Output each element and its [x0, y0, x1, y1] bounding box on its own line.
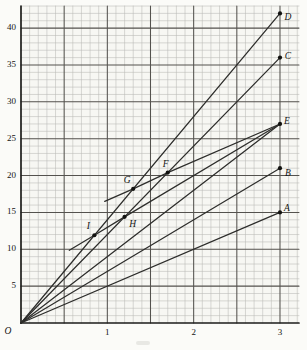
- y-tick-label-20: 20: [7, 170, 17, 180]
- y-tick-label-30: 30: [7, 96, 17, 106]
- y-tick-label-40: 40: [7, 22, 17, 32]
- point-label-C: C: [285, 51, 292, 61]
- y-tick-label-5: 5: [12, 280, 17, 290]
- point-dot-A: [278, 210, 282, 214]
- point-dot-H: [122, 215, 126, 219]
- point-label-G: G: [124, 175, 131, 185]
- y-tick-label-35: 35: [7, 59, 17, 69]
- graph-canvas: ABCDEFGHI510152025303540123O: [0, 0, 307, 350]
- point-label-A: A: [283, 203, 290, 213]
- caption-smudge-artifact: [136, 341, 150, 345]
- point-label-B: B: [285, 168, 291, 178]
- point-dot-E: [278, 122, 282, 126]
- point-dot-G: [131, 187, 135, 191]
- x-tick-label-3: 3: [278, 327, 283, 337]
- point-label-E: E: [283, 116, 290, 126]
- y-tick-label-15: 15: [7, 206, 17, 216]
- point-label-H: H: [128, 219, 137, 229]
- x-tick-label-1: 1: [105, 327, 110, 337]
- point-dot-B: [278, 166, 282, 170]
- point-dot-F: [166, 171, 170, 175]
- grid-paper: [21, 6, 299, 323]
- point-dot-I: [92, 233, 96, 237]
- point-dot-C: [278, 56, 282, 60]
- x-tick-label-2: 2: [191, 327, 196, 337]
- point-label-F: F: [162, 159, 169, 169]
- y-tick-label-25: 25: [7, 133, 17, 143]
- point-dot-D: [278, 11, 282, 15]
- graph-paper-page: ABCDEFGHI510152025303540123O: [0, 0, 307, 350]
- point-label-D: D: [284, 12, 292, 22]
- origin-label: O: [5, 326, 12, 336]
- y-tick-label-10: 10: [7, 243, 17, 253]
